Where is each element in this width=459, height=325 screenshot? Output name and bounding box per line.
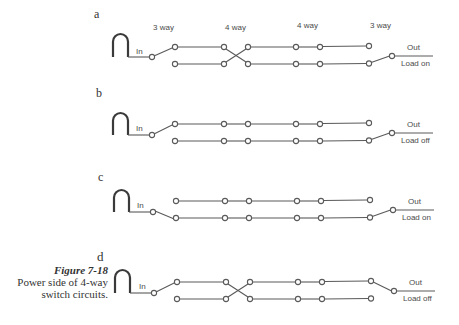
terminal-node (391, 288, 396, 293)
terminal-node (318, 215, 323, 220)
label-3way-right: 3 way (370, 21, 391, 30)
panel-d: d In Out Load off (97, 249, 433, 303)
terminal-node (247, 296, 252, 301)
terminal-node (293, 121, 298, 126)
wire (324, 218, 368, 219)
terminal-node (294, 215, 299, 220)
terminal-node (172, 121, 177, 126)
terminal-node (368, 278, 373, 283)
terminal-node (318, 198, 323, 203)
left-switch-lever (156, 283, 175, 292)
left-switch-lever (155, 211, 174, 219)
terminal-node (366, 61, 371, 66)
switch-type-labels: 3 way 4 way 4 way 3 way (153, 21, 391, 32)
terminal-node (295, 296, 300, 301)
terminal-node (172, 44, 177, 49)
right-switch-lever (373, 282, 391, 291)
terminal-node (245, 44, 250, 49)
terminal-node (245, 121, 250, 126)
terminal-node (222, 215, 227, 220)
load-status-label: Load on (402, 213, 431, 222)
terminal-node (319, 279, 324, 284)
terminal-node (172, 61, 177, 66)
terminal-node (245, 61, 250, 66)
wire (325, 281, 369, 282)
terminal-node (317, 138, 322, 143)
out-label: Out (407, 120, 421, 129)
terminal-node (246, 215, 251, 220)
wire (323, 46, 367, 47)
wire (324, 200, 368, 201)
terminal-node (150, 209, 155, 214)
terminal-node (246, 198, 251, 203)
label-4way-second: 4 way (297, 21, 318, 30)
out-label: Out (409, 278, 423, 287)
terminal-node (366, 120, 371, 125)
terminal-node (173, 198, 178, 203)
out-label: Out (407, 43, 421, 52)
panel-letter: c (98, 170, 103, 184)
terminal-node (223, 279, 228, 284)
figure-number: Figure 7-18 (17, 264, 108, 276)
right-switch-lever (371, 133, 389, 140)
terminal-node (174, 279, 179, 284)
terminal-node (221, 61, 226, 66)
terminal-node (317, 61, 322, 66)
in-label: In (139, 282, 146, 291)
left-switch-lever (154, 48, 173, 56)
terminal-node (172, 138, 177, 143)
caption-line-1: Power side of 4-way (17, 276, 108, 288)
caption-line-2: switch circuits. (17, 288, 108, 300)
load-status-label: Load on (401, 59, 430, 68)
wire (323, 64, 367, 65)
terminal-node (151, 290, 156, 295)
terminal-node (221, 121, 226, 126)
terminal-node (293, 44, 298, 49)
terminal-node (389, 53, 394, 58)
panel-letter: a (94, 7, 100, 21)
power-source-arch (114, 190, 129, 212)
terminal-node (221, 138, 226, 143)
terminal-node (174, 296, 179, 301)
terminal-node (317, 44, 322, 49)
right-switch-lever (371, 56, 389, 63)
terminal-node (317, 121, 322, 126)
load-status-label: Load off (403, 294, 433, 303)
terminal-node (366, 43, 371, 48)
wire (323, 141, 367, 142)
terminal-node (367, 197, 372, 202)
terminal-node (223, 296, 228, 301)
wire (323, 123, 367, 124)
right-switch-lever (372, 210, 390, 217)
panel-c: c In Out Load on (98, 170, 431, 222)
terminal-node (221, 44, 226, 49)
power-source-arch (115, 270, 130, 293)
terminal-node (222, 198, 227, 203)
terminal-node (366, 138, 371, 143)
in-label: In (136, 124, 143, 133)
figure-caption: Figure 7-18 Power side of 4-way switch c… (17, 264, 108, 300)
terminal-node (389, 130, 394, 135)
in-label: In (137, 201, 144, 210)
circuit-figure: 3 way 4 way 4 way 3 way a In Out Load on… (0, 0, 459, 325)
terminal-node (247, 279, 252, 284)
load-status-label: Load off (401, 136, 431, 145)
terminal-node (245, 138, 250, 143)
terminal-node (293, 138, 298, 143)
panel-letter: b (96, 86, 102, 100)
out-label: Out (408, 197, 422, 206)
label-4way-first: 4 way (225, 23, 246, 32)
power-source-arch (113, 34, 128, 57)
terminal-node (149, 132, 154, 137)
in-label: In (136, 47, 143, 56)
terminal-node (149, 54, 154, 59)
terminal-node (319, 296, 324, 301)
panel-a: a In Out Load on (94, 7, 430, 68)
terminal-node (390, 207, 395, 212)
power-source-arch (113, 113, 128, 135)
terminal-node (368, 296, 373, 301)
terminal-node (367, 215, 372, 220)
left-switch-lever (154, 125, 173, 134)
terminal-node (293, 61, 298, 66)
terminal-node (295, 279, 300, 284)
